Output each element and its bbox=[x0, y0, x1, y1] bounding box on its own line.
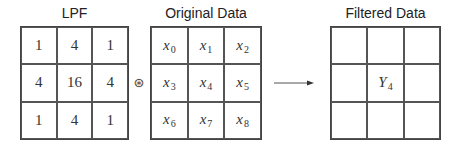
filtered-cell bbox=[331, 64, 367, 101]
original-cell: x4 bbox=[188, 64, 225, 101]
original-cell: x5 bbox=[224, 64, 261, 101]
original-cell: x1 bbox=[188, 27, 225, 64]
lpf-cell: 1 bbox=[92, 102, 128, 139]
lpf-cell: 1 bbox=[92, 27, 128, 64]
original-data-grid: x0 x1 x2 x3 x4 x5 x6 x7 x8 bbox=[150, 26, 262, 140]
filtered-cell bbox=[331, 27, 367, 64]
lpf-cell: 4 bbox=[57, 27, 93, 64]
lpf-cell: 1 bbox=[21, 102, 57, 139]
original-cell: x7 bbox=[188, 102, 225, 139]
lpf-cell: 4 bbox=[92, 64, 128, 101]
original-cell: x6 bbox=[151, 102, 188, 139]
filtered-data-title: Filtered Data bbox=[330, 4, 441, 22]
lpf-cell: 1 bbox=[21, 27, 57, 64]
lpf-cell: 4 bbox=[57, 102, 93, 139]
original-cell: x3 bbox=[151, 64, 188, 101]
lpf-kernel-grid: 1 4 1 4 16 4 1 4 1 bbox=[20, 26, 129, 140]
original-cell: x2 bbox=[224, 27, 261, 64]
filtered-cell bbox=[331, 102, 367, 139]
filtered-cell bbox=[404, 64, 440, 101]
original-cell: x8 bbox=[224, 102, 261, 139]
lpf-title: LPF bbox=[20, 4, 129, 22]
filtered-cell bbox=[404, 102, 440, 139]
lpf-cell: 16 bbox=[57, 64, 93, 101]
filtered-cell-center: Y4 bbox=[367, 64, 403, 101]
filtered-cell bbox=[367, 102, 403, 139]
filtered-cell bbox=[404, 27, 440, 64]
original-data-title: Original Data bbox=[150, 4, 262, 22]
right-arrow-icon bbox=[274, 78, 314, 88]
original-cell: x0 bbox=[151, 27, 188, 64]
lpf-cell: 4 bbox=[21, 64, 57, 101]
filtered-data-grid: Y4 bbox=[330, 26, 441, 140]
filtered-cell bbox=[367, 27, 403, 64]
convolution-operator-icon: ⊛ bbox=[131, 74, 147, 92]
